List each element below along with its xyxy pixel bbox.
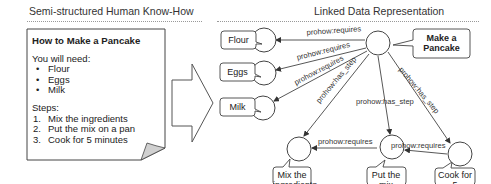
label-step2: Put the mix on a pan bbox=[366, 170, 406, 184]
label-main-line1: Make a bbox=[413, 33, 470, 43]
edge-label-requires-step2: prohow:requires bbox=[391, 141, 445, 150]
ingredient-list: Flour Eggs Milk bbox=[32, 64, 160, 96]
step-text: Put the mix on a pan bbox=[48, 123, 135, 134]
step-number: 3. bbox=[33, 135, 41, 146]
label-milk: Milk bbox=[220, 102, 255, 112]
step-text: Mix the ingredients bbox=[48, 113, 128, 124]
label-main: Make a Pancake bbox=[413, 33, 470, 53]
transform-arrow-icon bbox=[172, 64, 213, 142]
step-list: 1.Mix the ingredients 2.Put the mix on a… bbox=[32, 114, 160, 146]
label-step2-line1: Put the mix bbox=[366, 170, 406, 184]
label-step1-line2: ingredients bbox=[273, 180, 311, 184]
node-eggs[interactable] bbox=[252, 61, 276, 85]
edge-label-has-step-2: prohow:has_step bbox=[356, 97, 414, 106]
edge-label-requires-step1: prohow:requires bbox=[318, 137, 372, 146]
label-main-line2: Pancake bbox=[413, 43, 470, 53]
step-text: Cook for 5 minutes bbox=[48, 134, 128, 145]
label-step3-line1: Cook for 5 bbox=[435, 170, 475, 184]
node-step1[interactable] bbox=[287, 137, 311, 161]
label-step1-line1: Mix the bbox=[273, 170, 311, 180]
recipe-document: How to Make a Pancake You will need: Flo… bbox=[32, 36, 160, 145]
recipe-title: How to Make a Pancake bbox=[32, 36, 160, 47]
label-flour: Flour bbox=[221, 35, 256, 45]
label-step1: Mix the ingredients bbox=[273, 170, 311, 184]
ingredient-item: Milk bbox=[32, 85, 160, 96]
label-eggs: Eggs bbox=[220, 67, 255, 77]
label-step3: Cook for 5 minutes bbox=[435, 170, 475, 184]
step-item: 3.Cook for 5 minutes bbox=[32, 135, 160, 146]
node-main[interactable] bbox=[366, 31, 390, 55]
